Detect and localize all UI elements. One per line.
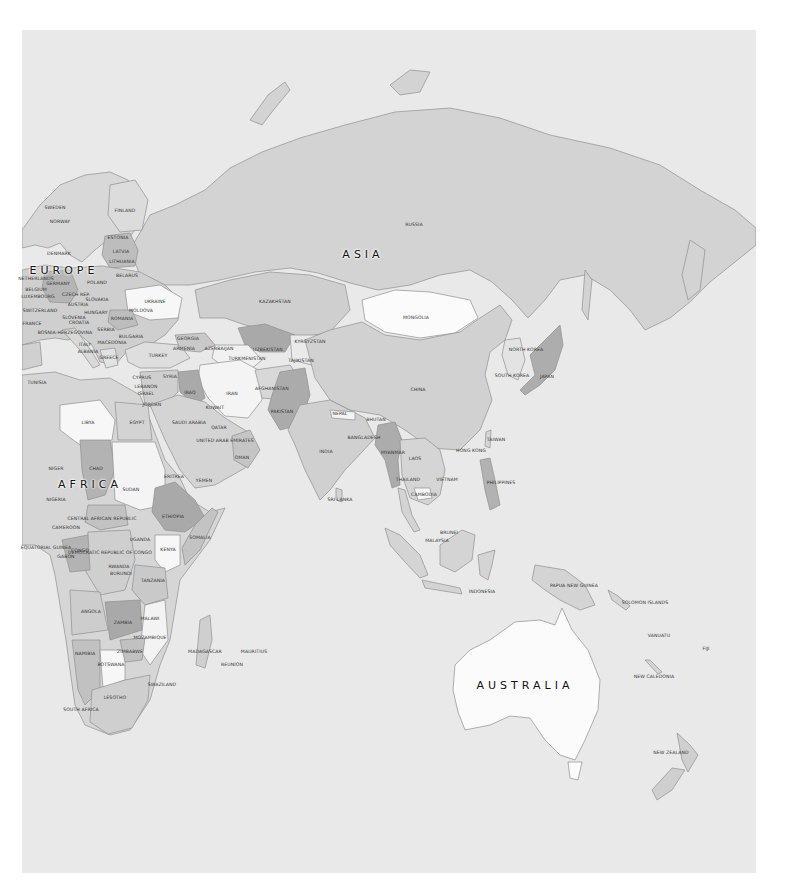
country-label-nigeria: NIGERIA xyxy=(46,497,66,502)
country-label-turkmenistan: TURKMENISTAN xyxy=(228,356,265,361)
country-label-luxembourg: LUXEMBOURG xyxy=(21,294,55,299)
country-label-uzbekistan: UZBEKISTAN xyxy=(253,347,283,352)
country-label-cameroon: CAMEROON xyxy=(52,525,80,530)
country-label-swaziland: SWAZILAND xyxy=(148,682,177,687)
country-label-united-arab-emirates: UNITED ARAB EMIRATES xyxy=(196,438,253,443)
country-label-mozambique: MOZAMBIQUE xyxy=(133,635,166,640)
country-label-myanmar: MYANMAR xyxy=(381,450,405,455)
country-label-vanuatu: VANUATU xyxy=(648,633,670,638)
country-label-turkey: TURKEY xyxy=(149,353,168,358)
country-label-solomon-islands: SOLOMON ISLANDS xyxy=(622,600,669,605)
country-label-afghanistan: AFGHANISTAN xyxy=(255,386,289,391)
country-label-bulgaria: BULGARIA xyxy=(119,334,143,339)
country-label-zambia: ZAMBIA xyxy=(114,620,133,625)
country-label-niger: NIGER xyxy=(49,466,64,471)
country-label-gabon: GABON xyxy=(57,554,74,559)
country-label-lebanon: LEBANON xyxy=(135,384,158,389)
country-label-romania: ROMANIA xyxy=(111,316,134,321)
country-label-iran: IRAN xyxy=(226,391,237,396)
country-label-china: CHINA xyxy=(410,387,425,392)
country-label-papua-new-guinea: PAPUA NEW GUINEA xyxy=(550,583,598,588)
continent-label-europe: EUROPE xyxy=(30,264,99,277)
country-label-albania: ALBANIA xyxy=(78,349,99,354)
country-label-italy: ITALY xyxy=(79,342,91,347)
country-label-sri-lanka: SRI LANKA xyxy=(327,497,352,502)
country-label-switzerland: SWITZERLAND xyxy=(23,308,58,313)
country-label-israel: ISRAEL xyxy=(138,391,154,396)
country-label-poland: POLAND xyxy=(87,280,107,285)
country-label-moldova: MOLDOVA xyxy=(129,308,153,313)
country-label-tajikistan: TAJIKISTAN xyxy=(288,358,314,363)
country-label-pakistan: PAKISTAN xyxy=(271,409,294,414)
country-label-vietnam: VIETNAM xyxy=(436,477,457,482)
country-label-thailand: THAILAND xyxy=(396,477,420,482)
country-label-libya: LIBYA xyxy=(82,420,95,425)
country-label-georgia: GEORGIA xyxy=(177,336,199,341)
country-label-india: INDIA xyxy=(319,449,332,454)
country-label-reunion: REUNION xyxy=(221,662,243,667)
country-label-democratic-republic-of-congo: DEMOCRATIC REPUBLIC OF CONGO xyxy=(68,550,152,555)
country-label-estonia: ESTONIA xyxy=(108,235,129,240)
country-label-tunisia: TUNISIA xyxy=(27,380,46,385)
country-label-finland: FINLAND xyxy=(115,208,136,213)
continent-label-asia: ASIA xyxy=(342,248,383,261)
country-label-new-caledonia: NEW CALEDONIA xyxy=(634,674,675,679)
country-label-kenya: KENYA xyxy=(160,547,175,552)
country-label-armenia: ARMENIA xyxy=(173,346,195,351)
country-label-latvia: LATVIA xyxy=(113,249,130,254)
country-label-russia: RUSSIA xyxy=(405,222,422,227)
country-label-mongolia: MONGOLIA xyxy=(403,315,429,320)
country-label-tanzania: TANZANIA xyxy=(141,578,165,583)
country-label-norway: NORWAY xyxy=(50,219,71,224)
country-label-ukraine: UKRAINE xyxy=(145,299,166,304)
country-label-zimbabwe: ZIMBABWE xyxy=(117,649,143,654)
country-label-bosnia-herzegovina: BOSNIA-HERZEGOVINA xyxy=(38,330,93,335)
country-label-japan: JAPAN xyxy=(540,374,554,379)
country-label-france: FRANCE xyxy=(23,321,42,326)
country-label-uganda: UGANDA xyxy=(130,537,151,542)
country-label-azerbaijan: AZERBAIJAN xyxy=(205,346,234,351)
country-label-new-zealand: NEW ZEALAND xyxy=(653,750,688,755)
country-label-bhutan: BHUTAN xyxy=(366,417,386,422)
country-label-cyprus: CYPRUS xyxy=(133,375,152,380)
country-label-qatar: QATAR xyxy=(211,425,227,430)
country-label-sweden: SWEDEN xyxy=(45,205,66,210)
country-label-south-korea: SOUTH KOREA xyxy=(495,373,529,378)
country-label-rwanda: RWANDA xyxy=(108,564,129,569)
country-label-serbia: SERBIA xyxy=(97,327,114,332)
country-label-nepal: NEPAL xyxy=(332,411,347,416)
continent-label-africa: AFRICA xyxy=(58,478,122,491)
country-label-malawi: MALAWI xyxy=(140,616,159,621)
country-label-egypt: EGYPT xyxy=(129,420,144,425)
country-label-kyrgyzstan: KYRGYZSTAN xyxy=(294,339,325,344)
country-label-cambodia: CAMBODIA xyxy=(411,492,437,497)
country-label-somalia: SOMALIA xyxy=(189,535,210,540)
country-label-greece: GREECE xyxy=(99,355,118,360)
country-label-malaysia: MALAYSIA xyxy=(425,538,449,543)
country-label-south-africa: SOUTH AFRICA xyxy=(63,707,99,712)
country-label-lithuania: LITHUANIA xyxy=(109,259,135,264)
country-label-iraq: IRAQ xyxy=(184,390,195,395)
country-label-oman: OMAN xyxy=(235,455,250,460)
country-label-hong-kong: HONG KONG xyxy=(456,448,486,453)
country-label-taiwan: TAIWAN xyxy=(487,437,505,442)
country-label-north-korea: NORTH KOREA xyxy=(509,347,543,352)
country-label-angola: ANGOLA xyxy=(81,609,101,614)
country-label-germany: GERMANY xyxy=(46,281,70,286)
country-label-namibia: NAMIBIA xyxy=(75,651,95,656)
country-label-central-african-republic: CENTRAL AFRICAN REPUBLIC xyxy=(68,516,137,521)
country-label-sudan: SUDAN xyxy=(123,487,140,492)
country-label-lesotho: LESOTHO xyxy=(104,695,127,700)
country-label-madagascar: MADAGASCAR xyxy=(188,649,222,654)
country-label-bangladesh: BANGLADESH xyxy=(348,435,381,440)
continent-label-australia: AUSTRALIA xyxy=(477,679,574,692)
country-label-austria: AUSTRIA xyxy=(68,302,89,307)
country-label-yemen: YEMEN xyxy=(196,478,213,483)
country-label-saudi-arabia: SAUDI ARABIA xyxy=(172,420,206,425)
country-label-botswana: BOTSWANA xyxy=(97,662,124,667)
country-label-slovakia: SLOVAKIA xyxy=(85,297,108,302)
country-label-fiji: FIJI xyxy=(702,646,709,651)
country-label-indonesia: INDONESIA xyxy=(469,589,496,594)
country-label-belarus: BELARUS xyxy=(116,273,138,278)
country-label-eritrea: ERITREA xyxy=(164,474,184,479)
